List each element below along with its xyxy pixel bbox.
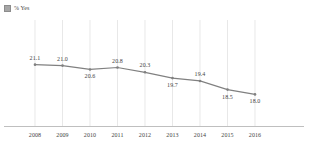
x-axis-line bbox=[4, 126, 304, 127]
data-point-2012 bbox=[144, 71, 147, 74]
data-point-2014 bbox=[199, 80, 202, 83]
x-tick-2012: 2012 bbox=[139, 131, 151, 139]
chart-legend: % Yes bbox=[4, 3, 30, 13]
data-point-2011 bbox=[116, 66, 119, 69]
data-label-2009: 21.0 bbox=[57, 56, 68, 63]
data-point-2009 bbox=[61, 64, 64, 67]
x-tick-2015: 2015 bbox=[221, 131, 233, 139]
data-point-2010 bbox=[89, 68, 92, 71]
x-tick-2014: 2014 bbox=[194, 131, 206, 139]
data-label-2013: 19.7 bbox=[167, 82, 178, 89]
data-point-2016 bbox=[254, 93, 257, 96]
data-label-2012: 20.3 bbox=[140, 62, 151, 69]
data-point-2008 bbox=[34, 63, 37, 66]
data-label-2008: 21.1 bbox=[30, 55, 41, 62]
data-label-2015: 18.5 bbox=[222, 94, 233, 101]
data-label-2011: 20.8 bbox=[112, 58, 123, 65]
legend-label: % Yes bbox=[14, 4, 30, 12]
x-tick-2013: 2013 bbox=[166, 131, 178, 139]
x-tick-2010: 2010 bbox=[84, 131, 96, 139]
line-chart: % Yes 21.121.020.620.820.319.719.418.518… bbox=[0, 0, 309, 150]
x-tick-2011: 2011 bbox=[111, 131, 123, 139]
data-point-2013 bbox=[171, 77, 174, 80]
data-label-2010: 20.6 bbox=[85, 73, 96, 80]
x-tick-2008: 2008 bbox=[29, 131, 41, 139]
data-point-2015 bbox=[226, 88, 229, 91]
legend-swatch-icon bbox=[4, 5, 11, 12]
x-tick-2009: 2009 bbox=[56, 131, 68, 139]
plot-area: 21.121.020.620.820.319.719.418.518.0 bbox=[0, 18, 309, 128]
data-label-2016: 18.0 bbox=[250, 98, 261, 105]
x-tick-2016: 2016 bbox=[249, 131, 261, 139]
data-label-2014: 19.4 bbox=[195, 71, 206, 78]
plot-svg bbox=[0, 18, 309, 128]
